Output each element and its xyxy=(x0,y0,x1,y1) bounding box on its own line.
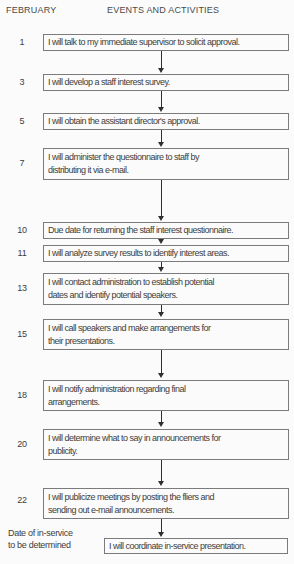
activity-box-11: I will analyze survey results to identif… xyxy=(43,245,289,262)
activity-box-18: I will notify administration regarding f… xyxy=(43,380,289,411)
date-label-20: 20 xyxy=(4,439,40,449)
flowchart-page: FEBRUARY EVENTS AND ACTIVITIES 1 I will … xyxy=(0,0,294,564)
activity-box-5: I will obtain the assistant director's a… xyxy=(43,113,289,130)
activity-box-15: I will call speakers and make arrangemen… xyxy=(43,319,289,350)
date-label-1: 1 xyxy=(4,37,40,47)
date-label-10: 10 xyxy=(4,225,40,235)
date-label-7: 7 xyxy=(4,158,40,168)
column-header-month: FEBRUARY xyxy=(6,5,56,15)
activity-box-7: I will administer the questionnaire to s… xyxy=(43,148,289,180)
date-label-15: 15 xyxy=(4,329,40,339)
activity-text-final: I will coordinate in-service presentatio… xyxy=(105,539,248,554)
flow-arrow-down-7 xyxy=(158,305,165,317)
activity-text-5: I will obtain the assistant director's a… xyxy=(44,114,202,129)
date-label-tbd: Date of in-service to be determined xyxy=(8,527,104,551)
activity-text-22: I will publicize meetings by posting the… xyxy=(44,489,216,517)
activity-text-18: I will notify administration regarding f… xyxy=(44,381,188,409)
date-label-5: 5 xyxy=(4,116,40,126)
flow-arrow-down-2 xyxy=(158,91,165,112)
activity-box-1: I will talk to my immediate supervisor t… xyxy=(43,34,289,51)
date-label-13: 13 xyxy=(4,283,40,293)
activity-text-3: I will develop a staff interest survey. xyxy=(44,75,172,90)
flow-arrow-down-6 xyxy=(158,262,165,272)
activity-box-10: Due date for returning the staff interes… xyxy=(43,222,289,239)
activity-box-20: I will determine what to say in announce… xyxy=(43,429,289,460)
activity-text-7: I will administer the questionnaire to s… xyxy=(44,149,201,177)
activity-text-20: I will determine what to say in announce… xyxy=(44,430,223,458)
flow-arrow-down-8 xyxy=(158,350,165,378)
activity-text-11: I will analyze survey results to identif… xyxy=(44,246,231,261)
flow-arrow-down-11 xyxy=(158,519,165,537)
flow-arrow-down-1 xyxy=(158,51,165,73)
column-header-events: EVENTS AND ACTIVITIES xyxy=(107,5,219,15)
activity-box-13: I will contact administration to establi… xyxy=(43,273,289,305)
activity-text-13: I will contact administration to establi… xyxy=(44,274,216,302)
activity-text-10: Due date for returning the staff interes… xyxy=(44,223,235,238)
activity-text-15: I will call speakers and make arrangemen… xyxy=(44,320,213,348)
activity-box-3: I will develop a staff interest survey. xyxy=(43,74,289,91)
flow-arrow-down-4 xyxy=(158,180,165,221)
flow-arrow-down-9 xyxy=(158,411,165,427)
activity-text-1: I will talk to my immediate supervisor t… xyxy=(44,35,242,50)
flow-arrow-down-10 xyxy=(158,460,165,486)
flow-arrow-down-5 xyxy=(158,239,165,244)
date-label-22: 22 xyxy=(4,495,40,505)
date-label-18: 18 xyxy=(4,390,40,400)
date-label-11: 11 xyxy=(4,248,40,258)
activity-box-22: I will publicize meetings by posting the… xyxy=(43,488,289,519)
date-label-3: 3 xyxy=(4,77,40,87)
flow-arrow-down-3 xyxy=(158,130,165,147)
activity-box-final: I will coordinate in-service presentatio… xyxy=(104,538,288,554)
